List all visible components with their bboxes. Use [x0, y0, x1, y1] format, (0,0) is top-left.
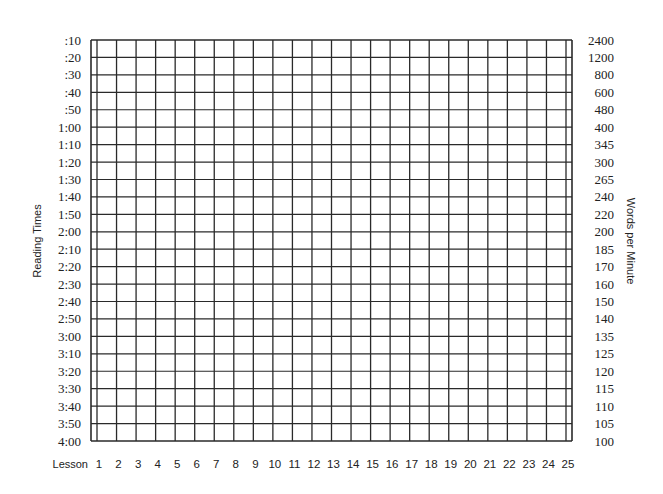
- wpm-tick: 150: [595, 294, 615, 309]
- wpm-tick: 400: [595, 120, 615, 135]
- lesson-tick: 21: [483, 458, 496, 470]
- wpm-tick: 110: [595, 399, 614, 414]
- reading-time-tick: 3:40: [58, 399, 81, 414]
- lesson-tick: 9: [252, 458, 258, 470]
- reading-time-tick: :50: [64, 102, 81, 117]
- lesson-label: Lesson: [53, 458, 88, 470]
- wpm-tick: 800: [595, 67, 615, 82]
- lesson-tick: 6: [194, 458, 200, 470]
- wpm-tick: 480: [595, 102, 615, 117]
- lesson-tick: 5: [174, 458, 180, 470]
- reading-time-tick: :30: [64, 67, 81, 82]
- wpm-tick: 105: [595, 416, 615, 431]
- wpm-tick: 115: [595, 381, 614, 396]
- reading-time-tick: 3:50: [58, 416, 81, 431]
- reading-time-tick: 2:30: [58, 277, 81, 292]
- wpm-tick: 100: [595, 434, 615, 449]
- words-per-minute-axis: 2400120080060048040034530026524022020018…: [588, 33, 614, 449]
- reading-time-tick: 3:30: [58, 381, 81, 396]
- lesson-tick: 3: [135, 458, 141, 470]
- wpm-tick: 2400: [588, 33, 614, 48]
- reading-time-tick: 1:20: [58, 155, 81, 170]
- reading-time-tick: 2:40: [58, 294, 81, 309]
- wpm-tick: 120: [595, 364, 615, 379]
- lesson-tick: 15: [366, 458, 379, 470]
- lesson-tick: 22: [503, 458, 516, 470]
- words-per-minute-label: Words per Minute: [625, 198, 637, 285]
- lesson-tick: 8: [233, 458, 239, 470]
- reading-times-axis: :10:20:30:40:501:001:101:201:301:401:502…: [58, 33, 81, 449]
- wpm-tick: 1200: [588, 50, 614, 65]
- reading-time-tick: 2:10: [58, 242, 81, 257]
- lesson-axis: 1234567891011121314151617181920212223242…: [96, 458, 575, 470]
- reading-time-tick: 4:00: [58, 434, 81, 449]
- wpm-tick: 220: [595, 207, 615, 222]
- reading-time-tick: :40: [64, 85, 81, 100]
- wpm-tick: 345: [595, 137, 615, 152]
- lesson-tick: 19: [444, 458, 457, 470]
- lesson-tick: 20: [464, 458, 477, 470]
- lesson-tick: 14: [347, 458, 360, 470]
- reading-time-tick: 3:10: [58, 346, 81, 361]
- wpm-tick: 240: [595, 189, 615, 204]
- reading-time-tick: :10: [64, 33, 81, 48]
- reading-times-label: Reading Times: [31, 204, 43, 278]
- reading-time-tick: :20: [64, 50, 81, 65]
- wpm-tick: 185: [595, 242, 615, 257]
- wpm-tick: 160: [595, 277, 615, 292]
- lesson-tick: 13: [327, 458, 340, 470]
- wpm-tick: 265: [595, 172, 615, 187]
- lesson-tick: 11: [288, 458, 300, 470]
- wpm-tick: 170: [595, 259, 615, 274]
- reading-progress-chart: :10:20:30:40:501:001:101:201:301:401:502…: [0, 0, 663, 494]
- lesson-tick: 16: [386, 458, 399, 470]
- reading-time-tick: 2:00: [58, 224, 81, 239]
- lesson-tick: 2: [115, 458, 121, 470]
- lesson-tick: 12: [308, 458, 321, 470]
- lesson-tick: 4: [154, 458, 161, 470]
- chart-grid: [91, 40, 572, 441]
- reading-time-tick: 1:50: [58, 207, 81, 222]
- wpm-tick: 140: [595, 311, 615, 326]
- lesson-tick: 1: [96, 458, 102, 470]
- wpm-tick: 125: [595, 346, 615, 361]
- lesson-tick: 23: [523, 458, 536, 470]
- lesson-tick: 17: [405, 458, 418, 470]
- wpm-tick: 600: [595, 85, 615, 100]
- lesson-tick: 7: [213, 458, 219, 470]
- lesson-tick: 10: [268, 458, 281, 470]
- reading-time-tick: 2:20: [58, 259, 81, 274]
- lesson-tick: 24: [542, 458, 555, 470]
- reading-time-tick: 2:50: [58, 311, 81, 326]
- reading-time-tick: 1:10: [58, 137, 81, 152]
- lesson-tick: 25: [562, 458, 575, 470]
- wpm-tick: 200: [595, 224, 615, 239]
- wpm-tick: 300: [595, 155, 615, 170]
- reading-time-tick: 3:00: [58, 329, 81, 344]
- lesson-tick: 18: [425, 458, 438, 470]
- reading-time-tick: 3:20: [58, 364, 81, 379]
- wpm-tick: 135: [595, 329, 615, 344]
- reading-time-tick: 1:40: [58, 189, 81, 204]
- reading-time-tick: 1:00: [58, 120, 81, 135]
- reading-time-tick: 1:30: [58, 172, 81, 187]
